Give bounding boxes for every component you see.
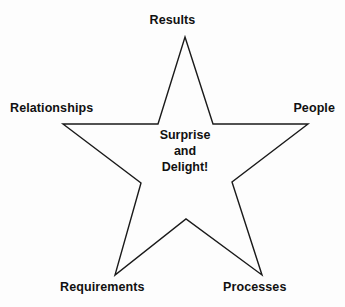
star-point-label-processes: Processes: [223, 281, 286, 294]
center-text-line-1: Surprise: [131, 127, 239, 143]
star-center-text: Surprise and Delight!: [131, 127, 239, 175]
star-point-label-relationships: Relationships: [10, 102, 93, 115]
center-text-line-2: and: [131, 143, 239, 159]
star-point-label-requirements: Requirements: [60, 281, 145, 294]
star-diagram: Results Relationships People Requirement…: [0, 0, 345, 307]
center-text-line-3: Delight!: [131, 159, 239, 175]
star-point-label-people: People: [293, 102, 335, 115]
star-point-label-results: Results: [0, 14, 345, 27]
